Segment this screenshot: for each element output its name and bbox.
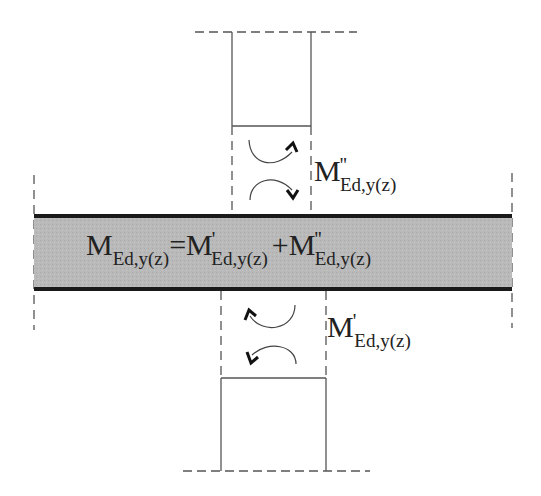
clockwise-arrow-icon bbox=[249, 140, 292, 163]
lower-label-prime: ' bbox=[353, 310, 357, 332]
beam-equation: MEd,y(z) = M'Ed,y(z) + M''Ed,y(z) bbox=[86, 228, 371, 270]
lower-label-subscript: Ed,y(z) bbox=[354, 330, 410, 351]
clockwise-arrow-icon bbox=[250, 180, 292, 200]
lower-moment-label: M'Ed,y(z) bbox=[327, 310, 411, 352]
upper-label-prime: '' bbox=[340, 154, 347, 176]
lower-moment-arrows bbox=[245, 305, 296, 364]
equation-term1-symbol: M bbox=[186, 228, 213, 261]
lower-label-symbol: M bbox=[327, 310, 354, 343]
equation-term2-prime: '' bbox=[314, 228, 321, 250]
equation-lhs-symbol: M bbox=[86, 228, 113, 261]
equation-lhs-subscript: Ed,y(z) bbox=[113, 248, 169, 269]
upper-moment-arrows bbox=[249, 140, 298, 200]
upper-label-symbol: M bbox=[314, 154, 341, 187]
equation-term2-symbol: M bbox=[289, 228, 316, 261]
upper-label-subscript: Ed,y(z) bbox=[340, 174, 396, 195]
equation-term1-prime: ' bbox=[212, 228, 216, 250]
equation-term2-subscript: Ed,y(z) bbox=[315, 248, 371, 269]
counterclockwise-arrow-icon bbox=[250, 305, 295, 328]
upper-moment-label: M''Ed,y(z) bbox=[314, 154, 396, 196]
equation-plus: + bbox=[272, 228, 289, 261]
counterclockwise-arrow-icon bbox=[252, 346, 296, 364]
equation-equals: = bbox=[169, 228, 186, 261]
equation-term1-subscript: Ed,y(z) bbox=[211, 248, 267, 269]
